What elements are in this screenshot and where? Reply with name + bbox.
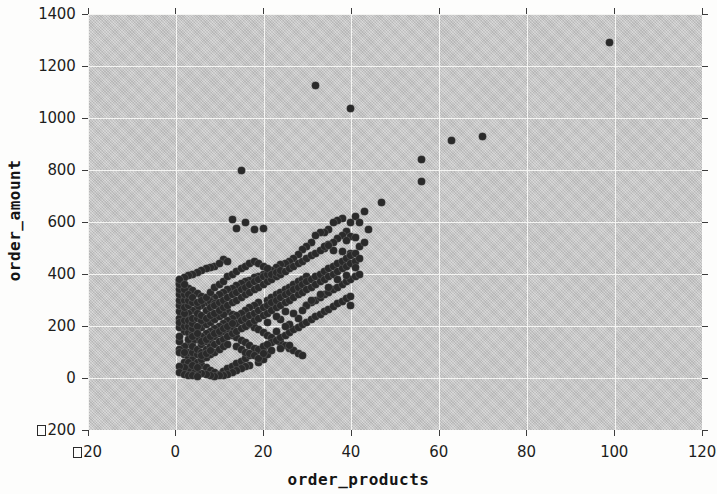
x-tick-mark bbox=[88, 430, 89, 436]
y-tick-mark-right bbox=[702, 378, 708, 379]
data-point bbox=[330, 247, 337, 254]
x-tick-mark bbox=[439, 430, 440, 436]
data-point bbox=[361, 239, 368, 246]
gridline-horizontal bbox=[88, 222, 703, 223]
x-tick-mark-top bbox=[263, 8, 264, 14]
gridline-horizontal bbox=[88, 378, 703, 379]
data-point bbox=[479, 133, 486, 140]
y-tick-mark-right bbox=[702, 66, 708, 67]
x-tick-mark-top bbox=[702, 8, 703, 14]
x-tick-label: 100 bbox=[574, 443, 654, 461]
y-tick-mark bbox=[82, 118, 88, 119]
data-point bbox=[347, 105, 354, 112]
x-tick-mark-top bbox=[439, 8, 440, 14]
gridline-vertical bbox=[615, 14, 616, 430]
data-point bbox=[273, 328, 280, 335]
x-tick-mark-top bbox=[614, 8, 615, 14]
data-point bbox=[347, 293, 354, 300]
x-tick-label: 60 bbox=[399, 443, 479, 461]
data-point bbox=[194, 364, 201, 371]
gridline-vertical bbox=[264, 14, 265, 430]
data-point bbox=[181, 281, 188, 288]
data-point bbox=[325, 284, 332, 291]
data-point bbox=[334, 276, 341, 283]
data-point bbox=[286, 342, 293, 349]
gridline-vertical bbox=[439, 14, 440, 430]
y-tick-label: 800 bbox=[47, 161, 75, 179]
gridline-horizontal bbox=[88, 170, 703, 171]
y-tick-label: 0 bbox=[66, 369, 75, 387]
y-tick-label: 1200 bbox=[38, 57, 75, 75]
data-point bbox=[194, 373, 201, 380]
y-tick-mark-right bbox=[702, 170, 708, 171]
data-point bbox=[308, 297, 315, 304]
data-point bbox=[260, 225, 267, 232]
data-point bbox=[361, 208, 368, 215]
x-tick-label: 0 bbox=[135, 443, 215, 461]
data-point bbox=[356, 255, 363, 262]
missing-glyph-box bbox=[73, 447, 82, 458]
x-tick-mark bbox=[702, 430, 703, 436]
data-point bbox=[268, 347, 275, 354]
x-tick-mark-top bbox=[88, 8, 89, 14]
y-tick-label: 600 bbox=[47, 213, 75, 231]
data-point bbox=[299, 307, 306, 314]
x-tick-mark bbox=[351, 430, 352, 436]
data-point bbox=[181, 349, 188, 356]
x-tick-mark bbox=[175, 430, 176, 436]
data-point bbox=[229, 216, 236, 223]
data-point bbox=[418, 178, 425, 185]
data-point bbox=[282, 308, 289, 315]
data-point bbox=[290, 310, 297, 317]
y-tick-mark bbox=[82, 222, 88, 223]
gridline-vertical bbox=[527, 14, 528, 430]
data-point bbox=[260, 350, 267, 357]
y-tick-label: 200 bbox=[47, 317, 75, 335]
data-point bbox=[352, 264, 359, 271]
data-point bbox=[606, 39, 613, 46]
data-point bbox=[378, 199, 385, 206]
y-tick-mark bbox=[82, 274, 88, 275]
gridline-vertical bbox=[88, 14, 89, 430]
x-tick-mark-top bbox=[526, 8, 527, 14]
data-point bbox=[365, 226, 372, 233]
data-point bbox=[233, 225, 240, 232]
x-tick-mark bbox=[614, 430, 615, 436]
gridline-horizontal bbox=[88, 66, 703, 67]
y-tick-label: 1400 bbox=[38, 5, 75, 23]
data-point bbox=[418, 156, 425, 163]
x-tick-label: 120 bbox=[662, 443, 717, 461]
data-point bbox=[352, 234, 359, 241]
data-point bbox=[229, 320, 236, 327]
x-tick-mark bbox=[526, 430, 527, 436]
data-point bbox=[448, 137, 455, 144]
y-axis-label: order_amount bbox=[5, 13, 24, 429]
gridline-horizontal bbox=[88, 14, 703, 15]
x-tick-label: 80 bbox=[486, 443, 566, 461]
missing-glyph-box bbox=[37, 425, 46, 436]
data-point bbox=[343, 272, 350, 279]
y-tick-mark bbox=[82, 326, 88, 327]
plot-area bbox=[88, 14, 703, 430]
data-point bbox=[224, 341, 231, 348]
y-tick-label: 400 bbox=[47, 265, 75, 283]
y-tick-mark bbox=[82, 170, 88, 171]
data-point bbox=[317, 291, 324, 298]
x-tick-label: 20 bbox=[48, 443, 128, 461]
y-tick-mark bbox=[82, 66, 88, 67]
y-tick-mark bbox=[82, 14, 88, 15]
data-point bbox=[343, 237, 350, 244]
y-tick-mark bbox=[82, 430, 88, 431]
data-point bbox=[347, 219, 354, 226]
data-point bbox=[347, 302, 354, 309]
gridline-horizontal bbox=[88, 274, 703, 275]
x-tick-mark bbox=[263, 430, 264, 436]
y-tick-mark-right bbox=[702, 222, 708, 223]
data-point bbox=[277, 345, 284, 352]
y-tick-mark bbox=[82, 378, 88, 379]
data-point bbox=[224, 258, 231, 265]
scatter-plot-figure: 2000200400600800100012001400200204060801… bbox=[0, 0, 717, 494]
data-point bbox=[242, 219, 249, 226]
y-tick-label: 200 bbox=[37, 421, 75, 439]
data-point bbox=[356, 219, 363, 226]
